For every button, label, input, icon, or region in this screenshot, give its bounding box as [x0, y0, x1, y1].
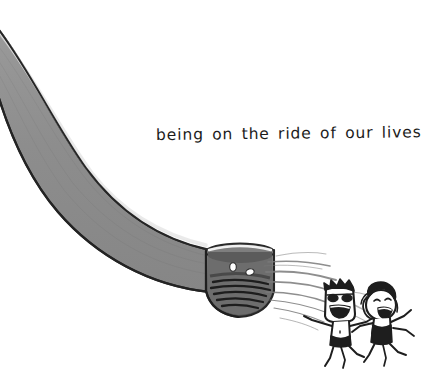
slide-tube-opening: [204, 244, 278, 321]
illustration-canvas: being on the ride of our lives: [0, 0, 442, 370]
rider-with-sunglasses: [304, 279, 373, 368]
slide-body: [0, 26, 210, 292]
bubble-highlight-1: [230, 263, 237, 272]
rider1-leg-left: [325, 345, 334, 366]
rider2-swimsuit: [371, 325, 392, 345]
rider1-lens-left: [328, 294, 338, 301]
rider1-leg-extra: [341, 347, 345, 368]
rider2-leg-right: [389, 343, 406, 355]
scene-svg: [0, 0, 442, 370]
rider1-lens-right: [342, 294, 352, 301]
water-slide-chute: [0, 26, 210, 292]
rider2-leg-extra: [383, 345, 386, 366]
rider1-leg-right: [348, 345, 364, 357]
rider2-arm-extra: [393, 328, 414, 336]
rider2-leg-left: [364, 343, 375, 362]
